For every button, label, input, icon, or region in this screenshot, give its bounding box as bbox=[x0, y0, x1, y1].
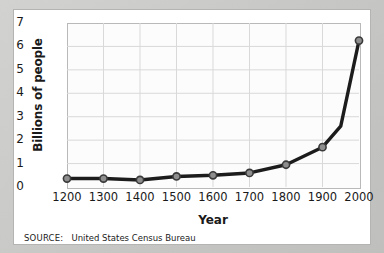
y-axis-tick-label: 5 bbox=[0, 62, 24, 76]
chart-svg bbox=[67, 23, 360, 188]
gridlines bbox=[67, 23, 359, 187]
y-axis-title: Billions of people bbox=[31, 20, 45, 170]
data-point-marker bbox=[136, 176, 143, 183]
x-axis-tick-label: 2000 bbox=[334, 190, 384, 204]
source-label: SOURCE: bbox=[24, 233, 63, 243]
chart-card: Billions of people 01234567 120013001400… bbox=[13, 9, 371, 245]
data-point-marker bbox=[63, 175, 70, 182]
data-point-marker bbox=[100, 175, 107, 182]
data-point-marker bbox=[209, 172, 216, 179]
y-axis-tick-label: 1 bbox=[0, 156, 24, 170]
source-note: SOURCE: United States Census Bureau bbox=[24, 233, 196, 243]
population-line-chart: Billions of people 01234567 120013001400… bbox=[14, 10, 372, 246]
data-point-marker bbox=[319, 144, 326, 151]
y-axis-tick-label: 0 bbox=[0, 179, 24, 193]
data-point-marker bbox=[173, 173, 180, 180]
y-axis-tick-label: 7 bbox=[0, 15, 24, 29]
x-axis-title: Year bbox=[67, 213, 359, 227]
data-point-marker bbox=[282, 161, 289, 168]
data-point-marker bbox=[246, 169, 253, 176]
y-axis-tick-label: 4 bbox=[0, 85, 24, 99]
source-value: United States Census Bureau bbox=[71, 233, 195, 243]
data-point-marker bbox=[355, 37, 362, 44]
y-axis-tick-label: 6 bbox=[0, 38, 24, 52]
y-axis-tick-label: 2 bbox=[0, 132, 24, 146]
y-axis-tick-label: 3 bbox=[0, 109, 24, 123]
